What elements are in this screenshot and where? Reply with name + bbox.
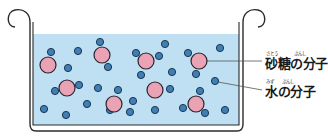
water-molecule xyxy=(40,105,47,112)
water-label-text: 水の分子 xyxy=(265,85,315,98)
water-molecule xyxy=(104,63,111,70)
furigana-bunshi: ぶんし xyxy=(282,79,294,84)
water-molecule xyxy=(168,68,175,75)
water-molecule xyxy=(94,84,101,91)
water-molecule xyxy=(129,97,136,104)
water-molecule xyxy=(64,64,71,71)
furigana-bunshi: ぶんし xyxy=(294,51,306,56)
water-molecule xyxy=(221,106,228,113)
water-molecule xyxy=(126,108,133,115)
sugar-molecule xyxy=(40,57,56,73)
sugar-molecule xyxy=(191,53,207,69)
sugar-molecule xyxy=(147,82,163,98)
water-molecule xyxy=(184,49,191,56)
water-molecule xyxy=(62,111,69,118)
sugar-molecule xyxy=(106,96,122,112)
water-molecule xyxy=(75,81,82,88)
water-molecule xyxy=(51,87,58,94)
water-molecule xyxy=(155,52,162,59)
water-molecule-label: みず ぶんし 水の分子 xyxy=(265,79,315,98)
furigana-mizu: みず xyxy=(266,79,274,84)
sugar-furigana: さとう ぶんし xyxy=(265,51,328,57)
water-molecule xyxy=(216,44,223,51)
water-molecule xyxy=(137,71,144,78)
water-molecule xyxy=(201,109,208,116)
water-molecule xyxy=(161,40,168,47)
sugar-molecule xyxy=(94,47,110,63)
water-molecule xyxy=(114,86,121,93)
water-molecule xyxy=(96,38,103,45)
water-molecule xyxy=(132,49,139,56)
water-molecule xyxy=(74,47,81,54)
water-molecule xyxy=(166,85,173,92)
sugar-label-text: 砂糖の分子 xyxy=(265,57,328,70)
sugar-molecule xyxy=(59,80,75,96)
water-molecule xyxy=(151,106,158,113)
sugar-molecule xyxy=(138,53,154,69)
water-molecule xyxy=(211,77,218,84)
sugar-molecule xyxy=(188,96,204,112)
water-molecule xyxy=(196,87,203,94)
water-molecule xyxy=(179,104,186,111)
water-molecule xyxy=(83,100,90,107)
water-molecule xyxy=(192,70,199,77)
water-furigana: みず ぶんし xyxy=(265,79,315,85)
sugar-molecule-label: さとう ぶんし 砂糖の分子 xyxy=(265,51,328,70)
furigana-sato: さとう xyxy=(266,51,278,56)
water-molecule xyxy=(47,48,54,55)
